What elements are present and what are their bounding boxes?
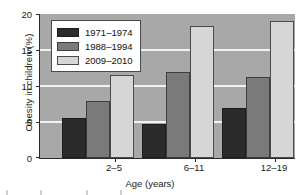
legend-label-1988-1994: 1988–1994	[85, 41, 133, 52]
y-tick-label-5: 5	[10, 117, 32, 128]
scan-artifact	[86, 190, 88, 195]
scan-artifact	[6, 190, 8, 195]
x-axis-title: Age (years)	[0, 178, 300, 189]
x-tick-label-12-19: 12–19	[244, 162, 300, 173]
legend-label-2009-2010: 2009–2010	[85, 55, 133, 66]
legend-item-1988-1994: 1988–1994	[57, 39, 133, 53]
legend: 1971–1974 1988–1994 2009–2010	[51, 20, 141, 72]
y-tick-label-15: 15	[10, 45, 32, 56]
bar-1988-1994-2-5	[86, 101, 110, 158]
y-tickmark-15	[36, 50, 40, 51]
bar-1988-1994-12-19	[246, 77, 270, 158]
legend-swatch-icon-1988-1994	[57, 42, 79, 51]
legend-swatch-icon-1971-1974	[57, 28, 79, 37]
y-tickmark-5	[36, 122, 40, 123]
y-tickmark-10	[36, 86, 40, 87]
bar-chart-figure: Obesity in children (%) 20 15 10 5 0 1	[0, 0, 300, 195]
bar-2009-2010-6-11	[190, 26, 214, 159]
bar-1971-1974-2-5	[62, 118, 86, 158]
x-tick-label-2-5: 2–5	[84, 162, 144, 173]
y-tick-label-0: 0	[10, 153, 32, 164]
y-tick-label-10: 10	[10, 81, 32, 92]
bar-2009-2010-2-5	[110, 75, 134, 158]
scan-artifact	[40, 190, 42, 195]
scan-artifact	[120, 190, 122, 195]
legend-swatch-icon-2009-2010	[57, 56, 79, 65]
y-tickmark-0	[36, 157, 40, 158]
x-tick-label-6-11: 6–11	[164, 162, 224, 173]
y-tick-label-20: 20	[10, 9, 32, 20]
bar-2009-2010-12-19	[270, 21, 294, 159]
y-tickmark-20	[36, 14, 40, 15]
legend-item-2009-2010: 2009–2010	[57, 53, 133, 67]
legend-item-1971-1974: 1971–1974	[57, 25, 133, 39]
legend-label-1971-1974: 1971–1974	[85, 27, 133, 38]
bar-1971-1974-6-11	[142, 124, 166, 158]
bar-1971-1974-12-19	[222, 108, 246, 158]
bar-1988-1994-6-11	[166, 72, 190, 158]
